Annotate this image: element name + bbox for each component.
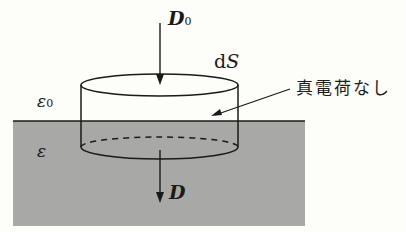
pointer-head-icon [211,109,222,116]
label-epsilon0-sub: 0 [46,97,53,110]
pillbox-boundary-diagram: D0 dS ε0 ε D 真電荷なし [0,0,406,232]
label-epsilon0-main: ε [37,91,46,111]
pointer-line [215,89,290,115]
arrow-D0-head-icon [156,74,164,85]
label-dS: dS [214,52,239,71]
label-no-true-charge: 真電荷なし [296,80,391,97]
label-D: D [169,183,185,202]
label-dS-S: S [226,50,239,72]
label-dS-d: d [214,50,226,72]
label-epsilon: ε [37,143,46,160]
label-epsilon0: ε0 [37,93,53,110]
diagram-canvas [0,0,406,232]
label-D0-sub: 0 [184,15,191,28]
label-D0-main: D [168,7,184,29]
label-D0: D0 [168,9,191,28]
